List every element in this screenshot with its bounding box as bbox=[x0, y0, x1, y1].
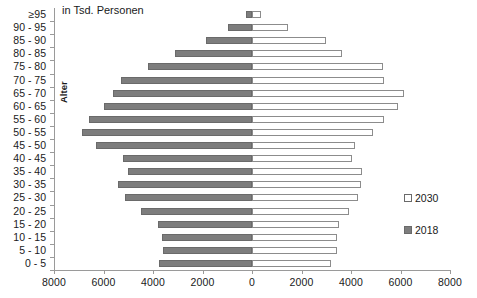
pyramid-row: 90 - 95 bbox=[54, 21, 450, 34]
age-band-label: 0 - 5 bbox=[25, 258, 46, 269]
age-band-label: 70 - 75 bbox=[13, 75, 46, 86]
y-axis-tick bbox=[50, 60, 54, 61]
y-axis-tick bbox=[50, 126, 54, 127]
bar-2018 bbox=[141, 208, 252, 215]
x-axis-tick-label: 4000 bbox=[339, 276, 363, 288]
pyramid-row: 80 - 85 bbox=[54, 47, 450, 60]
bar-2030 bbox=[252, 247, 337, 254]
bar-2030 bbox=[252, 260, 331, 267]
y-axis-tick bbox=[50, 113, 54, 114]
x-axis-tick-label: 2000 bbox=[289, 276, 313, 288]
x-axis-tick-label: 8000 bbox=[438, 276, 462, 288]
bar-2018 bbox=[125, 194, 252, 201]
y-axis-tick bbox=[50, 257, 54, 258]
y-axis-tick bbox=[50, 100, 54, 101]
bar-2030 bbox=[252, 208, 349, 215]
pyramid-row: 30 - 35 bbox=[54, 178, 450, 191]
legend-item-2018: 2018 bbox=[404, 224, 438, 236]
age-band-label: 65 - 70 bbox=[13, 88, 46, 99]
bar-2018 bbox=[175, 50, 252, 57]
bar-2030 bbox=[252, 116, 384, 123]
pyramid-row: 60 - 65 bbox=[54, 100, 450, 113]
bar-2030 bbox=[252, 103, 398, 110]
legend-swatch-2018 bbox=[404, 226, 412, 234]
y-axis-tick bbox=[50, 191, 54, 192]
y-axis-tick bbox=[50, 74, 54, 75]
bar-2030 bbox=[252, 37, 326, 44]
legend: 2030 2018 bbox=[404, 192, 438, 256]
bar-2030 bbox=[252, 234, 337, 241]
legend-label-2018: 2018 bbox=[415, 224, 438, 236]
x-axis-tick bbox=[203, 270, 204, 274]
x-axis-tick-label: 4000 bbox=[141, 276, 165, 288]
y-axis-tick bbox=[50, 165, 54, 166]
x-axis-tick-label: 2000 bbox=[190, 276, 214, 288]
age-band-label: 40 - 45 bbox=[13, 153, 46, 164]
age-band-label: 50 - 55 bbox=[13, 127, 46, 138]
bar-2030 bbox=[252, 50, 342, 57]
y-axis-tick bbox=[50, 21, 54, 22]
y-axis-tick bbox=[50, 47, 54, 48]
age-band-label: 80 - 85 bbox=[13, 48, 46, 59]
population-pyramid-chart: in Tsd. Personen Alter ≥9590 - 9585 - 90… bbox=[0, 0, 477, 298]
bar-2018 bbox=[96, 142, 252, 149]
y-axis-tick bbox=[50, 34, 54, 35]
bar-2030 bbox=[252, 129, 373, 136]
pyramid-row: 40 - 45 bbox=[54, 152, 450, 165]
age-band-label: 20 - 25 bbox=[13, 206, 46, 217]
pyramid-row: 75 - 80 bbox=[54, 60, 450, 73]
pyramid-row: 15 - 20 bbox=[54, 218, 450, 231]
pyramid-row: 0 - 5 bbox=[54, 257, 450, 270]
age-band-label: 90 - 95 bbox=[13, 22, 46, 33]
pyramid-row: 10 - 15 bbox=[54, 231, 450, 244]
x-axis-tick-label: 6000 bbox=[388, 276, 412, 288]
y-axis-tick bbox=[50, 139, 54, 140]
bar-2018 bbox=[89, 116, 252, 123]
pyramid-row: 25 - 30 bbox=[54, 191, 450, 204]
x-axis-tick bbox=[351, 270, 352, 274]
pyramid-row: 20 - 25 bbox=[54, 205, 450, 218]
bar-2018 bbox=[113, 90, 252, 97]
x-axis-tick bbox=[54, 270, 55, 274]
bar-2018 bbox=[82, 129, 252, 136]
x-axis-tick-label: 0 bbox=[249, 276, 255, 288]
age-band-label: 75 - 80 bbox=[13, 61, 46, 72]
pyramid-row: 50 - 55 bbox=[54, 126, 450, 139]
bar-2030 bbox=[252, 77, 384, 84]
x-axis-tick bbox=[450, 270, 451, 274]
x-axis-tick bbox=[302, 270, 303, 274]
age-band-label: ≥95 bbox=[29, 9, 46, 20]
x-axis-tick bbox=[401, 270, 402, 274]
bar-2030 bbox=[252, 194, 358, 201]
x-axis-tick-label: 6000 bbox=[91, 276, 115, 288]
bar-2030 bbox=[252, 11, 261, 18]
y-axis-tick bbox=[50, 218, 54, 219]
age-band-label: 30 - 35 bbox=[13, 179, 46, 190]
pyramid-row: 5 - 10 bbox=[54, 244, 450, 257]
bar-2018 bbox=[118, 181, 252, 188]
bar-2030 bbox=[252, 63, 383, 70]
age-band-label: 45 - 50 bbox=[13, 140, 46, 151]
y-axis-tick bbox=[50, 152, 54, 153]
age-band-label: 25 - 30 bbox=[13, 192, 46, 203]
bar-2030 bbox=[252, 181, 361, 188]
y-axis-tick bbox=[50, 231, 54, 232]
bar-2030 bbox=[252, 155, 352, 162]
pyramid-row: 55 - 60 bbox=[54, 113, 450, 126]
bar-2018 bbox=[206, 37, 252, 44]
bar-2018 bbox=[104, 103, 253, 110]
pyramid-row: 65 - 70 bbox=[54, 87, 450, 100]
bar-2018 bbox=[228, 24, 252, 31]
legend-item-2030: 2030 bbox=[404, 192, 438, 204]
legend-label-2030: 2030 bbox=[415, 192, 438, 204]
pyramid-row: 70 - 75 bbox=[54, 74, 450, 87]
bar-2018 bbox=[163, 247, 252, 254]
plot-area: ≥9590 - 9585 - 9080 - 8575 - 8070 - 7565… bbox=[54, 8, 450, 270]
bar-2030 bbox=[252, 142, 355, 149]
age-band-label: 35 - 40 bbox=[13, 166, 46, 177]
bar-2018 bbox=[159, 260, 252, 267]
pyramid-row: 85 - 90 bbox=[54, 34, 450, 47]
bar-2018 bbox=[128, 168, 252, 175]
bar-2018 bbox=[121, 77, 252, 84]
y-axis-tick bbox=[50, 244, 54, 245]
